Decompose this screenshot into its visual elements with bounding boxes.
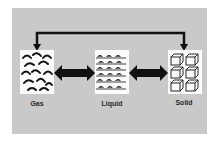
liquid-label: Liquid bbox=[92, 100, 132, 107]
solid-cubes-icon bbox=[168, 50, 202, 94]
gas-label: Gas bbox=[17, 100, 57, 107]
gas-liquid-double-arrow bbox=[54, 65, 95, 81]
gas-particles-icon bbox=[20, 50, 54, 94]
liquid-solid-double-arrow bbox=[129, 65, 168, 81]
solid-label: Solid bbox=[164, 99, 204, 106]
gas-box bbox=[20, 50, 54, 94]
top-bracket-arrow bbox=[33, 33, 188, 51]
liquid-box bbox=[95, 50, 129, 94]
liquid-waves-icon bbox=[95, 50, 129, 94]
solid-box bbox=[168, 50, 202, 94]
